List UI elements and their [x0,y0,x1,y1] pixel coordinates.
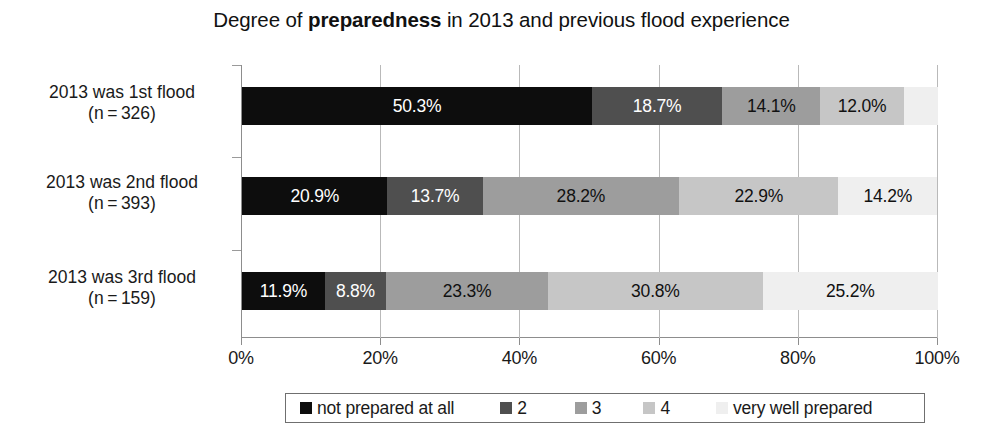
x-axis-tick [937,338,938,345]
category-label-line-2: (n = 159) [12,288,232,309]
legend-swatch-icon [300,402,312,414]
category-label-2nd-flood: 2013 was 2nd flood (n = 393) [12,172,232,214]
legend-swatch-icon [716,402,728,414]
chart-title-emphasis: preparedness [308,8,441,31]
x-axis-line [241,337,937,338]
legend-item[interactable]: 3 [575,398,602,419]
category-label-line-1: 2013 was 3rd flood [12,267,232,288]
bar-segment: 14.2% [838,177,937,215]
bar-segment [904,87,938,125]
legend-item[interactable]: 2 [500,398,527,419]
x-axis-tick [798,338,799,345]
legend-item[interactable]: 4 [643,398,670,419]
category-label-1st-flood: 2013 was 1st flood (n = 326) [12,82,232,124]
chart-title-text: Degree of [213,8,308,31]
chart-title: Degree of preparedness in 2013 and previ… [0,8,1003,32]
bar-segment: 22.9% [679,177,838,215]
y-axis-tick [232,65,241,66]
y-axis-tick [232,157,241,158]
category-label-line-2: (n = 393) [12,193,232,214]
category-label-line-2: (n = 326) [12,103,232,124]
bar-segment: 28.2% [483,177,679,215]
bar-row: 11.9%8.8%23.3%30.8%25.2% [242,272,938,310]
legend-label: 2 [517,398,527,419]
bar-segment: 12.0% [820,87,904,125]
chart-legend: not prepared at all234very well prepared [285,393,925,423]
bar-segment: 23.3% [386,272,548,310]
x-axis-tick-label: 40% [502,348,537,369]
bar-segment: 13.7% [387,177,482,215]
category-label-line-1: 2013 was 2nd flood [12,172,232,193]
x-axis-tick-label: 0% [228,348,254,369]
bar-row: 20.9%13.7%28.2%22.9%14.2% [242,177,937,215]
bar-segment: 20.9% [242,177,387,215]
legend-label: very well prepared [733,398,872,419]
x-axis-tick-label: 80% [780,348,815,369]
x-axis-tick [659,338,660,345]
x-axis-tick-label: 100% [914,348,959,369]
legend-swatch-icon [575,402,587,414]
x-axis-tick-label: 20% [362,348,397,369]
bar-segment: 8.8% [325,272,386,310]
bar-segment: 50.3% [242,87,592,125]
x-axis-tick-label: 60% [641,348,676,369]
bar-segment: 25.2% [763,272,938,310]
bar-segment: 30.8% [548,272,762,310]
x-axis-tick [519,338,520,345]
legend-label: not prepared at all [317,398,454,419]
legend-item[interactable]: not prepared at all [300,398,454,419]
bar-segment: 14.1% [722,87,820,125]
bar-row: 50.3%18.7%14.1%12.0% [242,87,938,125]
legend-item[interactable]: very well prepared [716,398,872,419]
bar-segment: 18.7% [592,87,722,125]
category-label-line-1: 2013 was 1st flood [12,82,232,103]
x-axis-tick [241,338,242,345]
plot-area: 50.3%18.7%14.1%12.0%20.9%13.7%28.2%22.9%… [241,65,937,338]
chart-title-text: in 2013 and previous flood experience [441,8,789,31]
legend-swatch-icon [500,402,512,414]
legend-swatch-icon [643,402,655,414]
category-label-3rd-flood: 2013 was 3rd flood (n = 159) [12,267,232,309]
x-axis-tick [380,338,381,345]
bar-segment: 11.9% [242,272,325,310]
legend-label: 3 [592,398,602,419]
y-axis-tick [232,250,241,251]
legend-label: 4 [660,398,670,419]
